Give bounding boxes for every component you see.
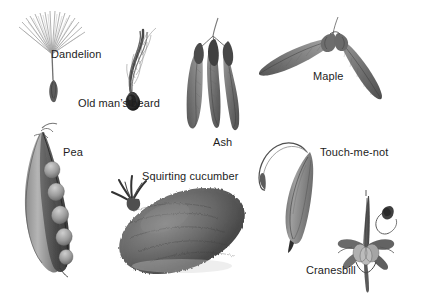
specimen-label-ash: Ash [213, 136, 232, 148]
specimen-label-pea: Pea [63, 146, 83, 158]
specimen-label-maple: Maple [313, 70, 343, 82]
cranesbill-art [338, 190, 397, 293]
squirting-cucumber-art [107, 171, 258, 291]
maple-art [259, 17, 382, 99]
specimen-label-cranesbill: Cranesbill [306, 264, 356, 276]
specimen-label-touch-me-not: Touch-me-not [320, 146, 388, 158]
ash-art [187, 18, 240, 130]
specimen-label-old-mans-beard: Old man’s beard [78, 97, 160, 109]
illustration-plate: Dandelion Old man’s beard Ash Maple Pea … [0, 0, 426, 302]
touch-me-not-art [259, 143, 313, 253]
specimen-label-dandelion: Dandelion [51, 48, 101, 60]
specimen-label-squirting-cucumber: Squirting cucumber [142, 170, 239, 182]
